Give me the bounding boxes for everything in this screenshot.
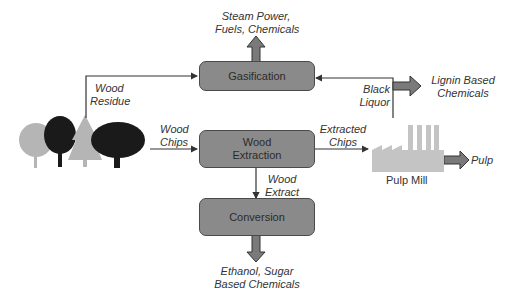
wood-chips-label: Wood Chips	[160, 123, 189, 149]
lignin-line1: Lignin Based	[420, 74, 506, 87]
lignin-output-label: Lignin Based Chemicals	[420, 74, 506, 100]
lignin-line2: Chemicals	[420, 87, 506, 100]
wood-extract-line2: Extract	[262, 186, 302, 199]
conversion-label: Conversion	[229, 211, 285, 224]
conversion-box: Conversion	[199, 198, 315, 236]
gasification-label: Gasification	[228, 70, 285, 83]
pulp-output-arrow-icon	[444, 151, 469, 169]
lignin-output-arrow-icon	[393, 76, 421, 96]
pulp-mill-label: Pulp Mill	[386, 174, 428, 186]
wood-residue-line2: Residue	[90, 95, 130, 108]
extracted-chips-line2: Chips	[315, 136, 371, 149]
ethanol-line1: Ethanol, Sugar	[212, 265, 302, 278]
pulp-mill-icon	[372, 125, 444, 172]
wood-extract-label: Wood Extract	[262, 173, 302, 199]
wood-residue-line1: Wood	[90, 82, 130, 95]
pulp-output-label: Pulp	[471, 154, 493, 167]
black-liquor-label: Black Liquor	[350, 83, 390, 109]
gasification-box: Gasification	[199, 61, 315, 91]
wood-extraction-box: Wood Extraction	[199, 130, 315, 168]
ethanol-output-arrow-icon	[247, 235, 265, 262]
wood-residue-label: Wood Residue	[90, 82, 130, 108]
ethanol-output-label: Ethanol, Sugar Based Chemicals	[212, 265, 302, 291]
black-liquor-line1: Black	[350, 83, 390, 96]
black-liquor-line2: Liquor	[350, 96, 390, 109]
wood-chips-line2: Chips	[160, 136, 189, 149]
wood-extraction-label-1: Wood	[243, 136, 272, 149]
forest-trees-icon	[19, 115, 145, 168]
wood-extraction-label-2: Extraction	[233, 149, 282, 162]
ethanol-line2: Based Chemicals	[212, 278, 302, 291]
steam-output-arrow-icon	[247, 36, 265, 62]
steam-line1: Steam Power,	[215, 10, 297, 23]
extracted-chips-line1: Extracted	[315, 123, 371, 136]
steam-output-label: Steam Power, Fuels, Chemicals	[215, 10, 297, 36]
wood-chips-line1: Wood	[160, 123, 189, 136]
extracted-chips-label: Extracted Chips	[315, 123, 371, 149]
steam-line2: Fuels, Chemicals	[215, 23, 297, 36]
wood-extract-line1: Wood	[262, 173, 302, 186]
